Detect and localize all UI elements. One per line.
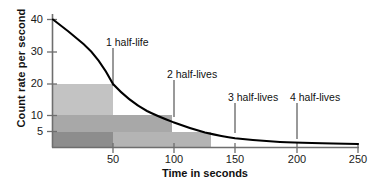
annotation-3-half-lives: 3 half-lives: [228, 91, 278, 103]
x-tick-label-200: 200: [277, 153, 317, 165]
y-tick-label-20: 20: [17, 77, 43, 89]
step-block-20: [53, 84, 113, 115]
x-tick-label-150: 150: [215, 153, 255, 165]
y-tick-label-10: 10: [17, 109, 43, 121]
step-block-low: [53, 132, 113, 147]
x-axis-title: Time in seconds: [52, 167, 358, 179]
decay-chart-figure: Count rate per second 40 30 20 10 5 50 1…: [0, 0, 377, 184]
x-tick-label-50: 50: [93, 153, 133, 165]
x-tick-label-100: 100: [154, 153, 194, 165]
x-tick-label-250: 250: [338, 153, 377, 165]
step-block-10: [53, 115, 172, 132]
y-tick-label-30: 30: [17, 45, 43, 57]
y-tick-label-5: 5: [17, 125, 43, 137]
annotation-1-half-life: 1 half-life: [106, 36, 149, 48]
y-tick-label-40: 40: [17, 13, 43, 25]
annotation-2-half-lives: 2 half-lives: [167, 68, 217, 80]
step-blocks-group: [53, 84, 211, 147]
annotation-4-half-lives: 4 half-lives: [290, 91, 340, 103]
